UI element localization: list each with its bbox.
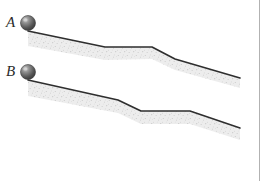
physics-ramp-figure: A B bbox=[0, 0, 271, 181]
ball-b bbox=[21, 65, 36, 80]
ball-a-highlight bbox=[23, 18, 27, 21]
ramp-a-group bbox=[21, 16, 241, 89]
ball-b-highlight bbox=[23, 67, 27, 70]
ramp-b-ground-fill bbox=[28, 80, 240, 140]
ramp-label-b: B bbox=[6, 64, 15, 79]
ramps-diagram bbox=[0, 0, 271, 181]
ramp-label-a: A bbox=[6, 15, 15, 30]
ball-a bbox=[21, 16, 36, 31]
ramp-a-ground-fill bbox=[28, 31, 240, 88]
